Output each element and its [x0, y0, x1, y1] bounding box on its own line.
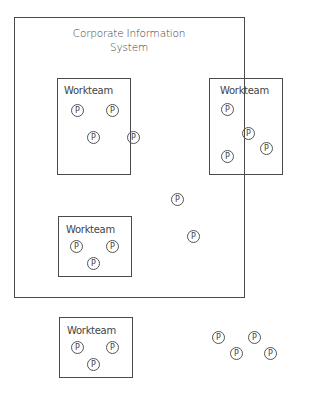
person-icon: P	[106, 104, 119, 117]
person-icon: P	[242, 127, 255, 140]
person-icon: P	[248, 331, 261, 344]
person-icon: P	[106, 240, 119, 253]
person-icon: P	[127, 131, 140, 144]
workteam-label-2: Workteam	[220, 85, 269, 96]
title-line-1: Corporate Information	[54, 26, 204, 40]
person-icon: P	[230, 347, 243, 360]
person-icon: P	[171, 193, 184, 206]
title-line-2: System	[54, 40, 204, 54]
person-icon: P	[187, 230, 200, 243]
workteam-label-1: Workteam	[64, 85, 113, 96]
person-icon: P	[71, 104, 84, 117]
person-icon: P	[71, 341, 84, 354]
diagram-title: Corporate Information System	[54, 26, 204, 54]
person-icon: P	[221, 103, 234, 116]
workteam-label-4: Workteam	[67, 325, 116, 336]
person-icon: P	[260, 142, 273, 155]
person-icon: P	[264, 347, 277, 360]
person-icon: P	[106, 341, 119, 354]
person-icon: P	[87, 257, 100, 270]
person-icon: P	[221, 150, 234, 163]
person-icon: P	[70, 240, 83, 253]
person-icon: P	[87, 131, 100, 144]
person-icon: P	[87, 358, 100, 371]
workteam-label-3: Workteam	[66, 224, 115, 235]
person-icon: P	[212, 331, 225, 344]
